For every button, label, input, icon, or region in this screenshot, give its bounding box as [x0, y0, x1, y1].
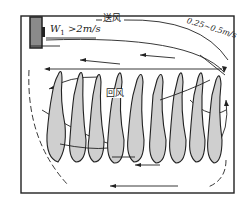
supply-air-label: 送风 [103, 14, 121, 23]
plant-rows [47, 71, 222, 163]
return-air-label: 回风 [106, 89, 124, 98]
inlet-velocity-label: W1 >2m/s [50, 24, 101, 37]
velocity-symbol: W [50, 23, 60, 34]
velocity-value: >2m/s [65, 23, 101, 34]
fan-unit-icon [30, 17, 45, 48]
